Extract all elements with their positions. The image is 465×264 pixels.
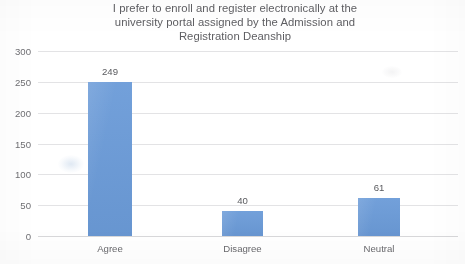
gridline-0-baseline: 0 xyxy=(38,236,458,237)
chart-title-line-3: Registration Deanship xyxy=(60,29,410,43)
bar-chart: I prefer to enroll and register electron… xyxy=(0,0,465,264)
y-axis-tick-label: 0 xyxy=(26,231,31,242)
chart-title-line-1: I prefer to enroll and register electron… xyxy=(60,1,410,15)
bar-group-neutral: 61 Neutral xyxy=(358,51,400,236)
x-axis-category-label: Disagree xyxy=(223,243,261,254)
plot-area: 300 250 200 150 100 50 0 249 xyxy=(38,51,458,236)
y-axis-tick-label: 150 xyxy=(15,138,31,149)
bar-neutral[interactable] xyxy=(358,198,400,236)
x-axis-category-label: Neutral xyxy=(364,243,395,254)
y-axis-tick-label: 50 xyxy=(20,200,31,211)
x-axis-category-label: Agree xyxy=(97,243,123,254)
bar-group-disagree: 40 Disagree xyxy=(222,51,263,236)
bar-value-label: 249 xyxy=(102,66,118,77)
y-axis-tick-label: 300 xyxy=(15,46,31,57)
chart-title-line-2: university portal assigned by the Admiss… xyxy=(60,15,410,29)
bar-disagree[interactable] xyxy=(222,211,263,236)
y-axis-tick-label: 200 xyxy=(15,107,31,118)
bars-layer: 249 Agree 40 Disagree 61 Neutral xyxy=(38,51,458,236)
bar-value-label: 40 xyxy=(237,195,248,206)
y-axis-tick-label: 250 xyxy=(15,76,31,87)
bar-value-label: 61 xyxy=(374,182,385,193)
bar-agree[interactable] xyxy=(88,82,132,236)
y-axis-tick-label: 100 xyxy=(15,169,31,180)
bar-group-agree: 249 Agree xyxy=(88,51,132,236)
chart-title: I prefer to enroll and register electron… xyxy=(60,1,410,44)
